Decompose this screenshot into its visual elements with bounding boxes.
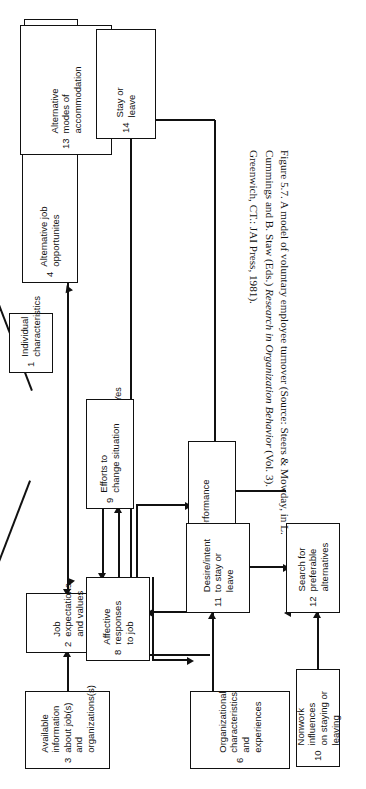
connector-8-to-6-v [152,659,190,661]
node-box-9[interactable]: 9 Efforts to change situation [86,399,134,509]
node-1-label: Individual characteristics [19,296,42,357]
node-14-number: 14 [120,122,132,133]
node-6-label: Organizational characteristics and exper… [217,691,263,752]
connector-1-to-2 [0,480,31,581]
caption-line-1: Figure 5.7. A model of voluntary employe… [279,150,291,511]
figure-rotation-wrapper: Yes No 3 Available information about job… [0,0,366,789]
connector-10-to-11 [317,612,319,669]
node-12-label: Search for preferable alternatives [296,543,331,592]
arrowhead-6-to-hub [208,612,216,619]
caption-journal-title: Research in Organization Behavior [264,289,276,448]
node-8-label: Affective responses to job [101,583,136,645]
caption-line-3: Greenwich, CT.: JAI Press, 1981). [248,150,260,304]
node-3-label: Available information about job(s) and o… [39,685,97,753]
node-9-number: 9 [104,498,116,503]
connector-8-to-7-h [136,505,138,577]
node-13-number: 13 [60,138,72,149]
node-2-label: Job expectations and values [51,583,86,636]
connector-11-to-12 [250,566,286,568]
node-3-number: 3 [62,758,74,763]
node-11-label: Desire/intent to stay or leave [201,529,236,592]
node-box-6[interactable]: 6 Organizational characteristics and exp… [190,691,290,769]
arrowhead-1-to-4 [63,284,73,293]
connector-8-to-9 [118,509,120,577]
figure-caption: Figure 5.7. A model of voluntary employe… [246,150,292,540]
node-14-label: Stay or leave [114,87,137,117]
connector-8-to-6-h [152,577,154,661]
connector-9-to-8 [102,509,104,577]
node-box-3[interactable]: 3 Available information about job(s) and… [25,691,110,769]
arrowhead-8-to-6 [187,657,194,665]
node-4-label: Alternative job opportunites [38,207,61,267]
connector-8-to-7-v [136,504,188,506]
node-box-11[interactable]: 11 Desire/intent to stay or leave [186,523,250,613]
connector-yes-to-14 [130,119,132,656]
node-2-number: 2 [62,642,74,647]
caption-line-2b: (Vol. 3). [264,448,276,488]
node-4-number: 4 [44,272,56,277]
connector-12-to-13-run [214,120,216,492]
node-6-number: 6 [234,758,246,763]
node-box-10[interactable]: 10 Nonwork influences on staying or leav… [296,669,340,767]
node-box-12[interactable]: 12 Search for preferable alternatives [286,523,340,613]
node-10-label: Nonwork influences on staying or leaving [295,675,341,745]
node-10-number: 10 [312,750,324,761]
node-box-4[interactable]: 4 Alternative job opportunites [22,153,78,283]
node-11-number: 11 [212,597,224,607]
node-8-number: 8 [112,650,124,655]
node-box-14[interactable]: 14 Stay or leave [96,29,156,139]
node-13-label: Alternative modes of accommodation [49,66,84,133]
flowchart-canvas: Yes No 3 Available information about job… [0,0,366,789]
node-box-1[interactable]: 1 Individual characteristics [9,313,53,373]
node-9-label: Efforts to change situation [98,424,121,493]
node-1-number: 1 [25,362,37,367]
node-box-8[interactable]: 8 Affective responses to job [86,577,150,661]
node-12-number: 12 [307,596,319,607]
